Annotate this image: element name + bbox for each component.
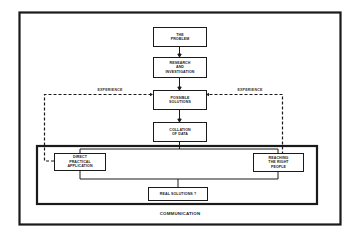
group-label-communication: COMMUNICATION — [140, 211, 220, 216]
node-research-and-investigation: RESEARCH AND INVESTIGATION — [153, 57, 207, 78]
node-reaching-the-right-people: REACHING THE RIGHT PEOPLE — [253, 153, 304, 172]
edge-label-experience-right: EXPERIENCE — [230, 88, 270, 92]
edge-label-experience-left: EXPERIENCE — [90, 88, 130, 92]
node-real-solutions: REAL SOLUTIONS ? — [148, 187, 208, 201]
flowchart-diagram: THE PROBLEM RESEARCH AND INVESTIGATION P… — [0, 0, 359, 240]
node-direct-practical-application: DIRECT PRACTICAL APPLICATION — [54, 153, 106, 171]
node-possible-solutions: POSSIBLE SOLUTIONS — [153, 90, 207, 110]
node-collation-of-data: COLLATION OF DATA — [153, 122, 207, 142]
node-the-problem: THE PROBLEM — [153, 27, 207, 47]
